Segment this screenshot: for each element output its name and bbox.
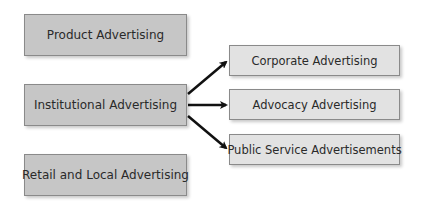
corporate-advertising-box: Corporate Advertising [229, 45, 400, 76]
public-service-advertisements-label: Public Service Advertisements [227, 143, 401, 157]
public-service-advertisements-box: Public Service Advertisements [229, 134, 400, 165]
retail-local-advertising-box: Retail and Local Advertising [24, 154, 187, 196]
advocacy-advertising-label: Advocacy Advertising [252, 98, 376, 112]
institutional-advertising-box: Institutional Advertising [24, 84, 187, 126]
product-advertising-box: Product Advertising [24, 14, 187, 56]
arrow-to-corporate [188, 62, 226, 94]
institutional-advertising-label: Institutional Advertising [34, 98, 177, 112]
corporate-advertising-label: Corporate Advertising [251, 54, 377, 68]
arrow-to-public-service [188, 116, 226, 148]
retail-local-advertising-label: Retail and Local Advertising [22, 168, 189, 182]
advocacy-advertising-box: Advocacy Advertising [229, 89, 400, 120]
product-advertising-label: Product Advertising [47, 28, 164, 42]
